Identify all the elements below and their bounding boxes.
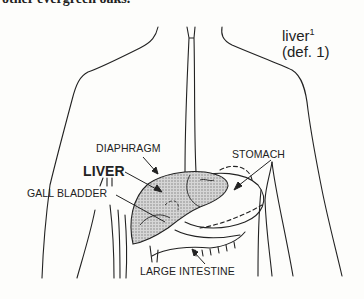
label-large-intestine: LARGE INTESTINE <box>140 265 235 277</box>
esophagus <box>185 27 196 172</box>
anatomy-illustration <box>0 0 364 299</box>
label-liver: LIVER <box>83 163 125 179</box>
label-diaphragm: DIAPHRAGM <box>96 142 161 154</box>
label-stomach: STOMACH <box>232 148 285 160</box>
label-gall-bladder: GALL BLADDER <box>27 187 107 199</box>
liver-shape <box>131 172 228 245</box>
